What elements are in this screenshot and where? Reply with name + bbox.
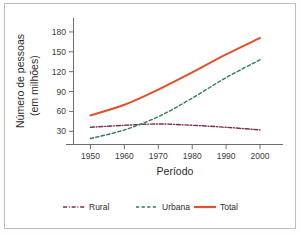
y-axis-tick-labels: 306090120150180	[52, 27, 66, 136]
y-axis-title-line2: (em milhões)	[28, 55, 40, 116]
x-axis-title: Período	[157, 165, 194, 177]
x-axis-ticks	[90, 145, 260, 150]
series-group	[90, 38, 260, 139]
legend-label-rural: Rural	[89, 202, 109, 212]
y-axis-ticks	[69, 32, 74, 131]
x-tick-label: 1980	[183, 151, 202, 161]
y-tick-label: 90	[57, 87, 67, 97]
y-tick-label: 30	[57, 126, 67, 136]
legend-label-total: Total	[220, 202, 238, 212]
legend-label-urbana: Urbana	[162, 202, 190, 212]
x-tick-label: 1950	[81, 151, 100, 161]
series-line-rural	[90, 124, 260, 130]
chart-figure: 306090120150180 195019601970198019902000…	[0, 0, 301, 233]
x-tick-label: 1990	[217, 151, 236, 161]
x-tick-label: 2000	[251, 151, 270, 161]
series-line-urbana	[90, 60, 260, 139]
y-tick-label: 150	[52, 47, 66, 57]
y-tick-label: 180	[52, 27, 66, 37]
x-axis-tick-labels: 195019601970198019902000	[81, 151, 270, 161]
y-tick-label: 120	[52, 67, 66, 77]
y-axis-title-line1: Número de pessoas	[14, 34, 26, 128]
y-tick-label: 60	[57, 106, 67, 116]
chart-legend: RuralUrbanaTotal	[63, 202, 238, 212]
x-tick-label: 1970	[149, 151, 168, 161]
series-line-total	[90, 38, 260, 115]
line-chart: 306090120150180 195019601970198019902000…	[0, 0, 301, 233]
x-tick-label: 1960	[115, 151, 134, 161]
